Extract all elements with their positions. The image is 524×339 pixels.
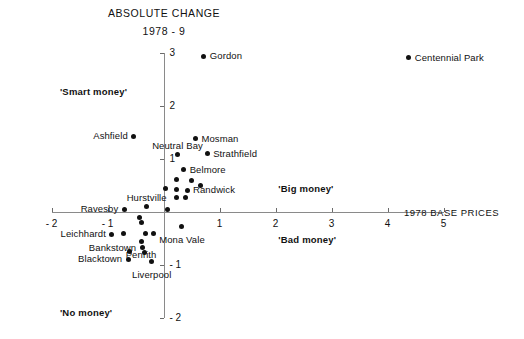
data-point — [143, 231, 148, 236]
data-point — [144, 204, 149, 209]
data-point — [174, 177, 179, 182]
point-label-ravesby: Ravesby — [81, 204, 119, 214]
data-point — [175, 152, 180, 157]
point-label-hurstville: Hurstville — [127, 193, 167, 203]
data-point — [406, 55, 411, 60]
data-point — [151, 231, 156, 236]
point-label-blacktown: Blacktown — [78, 254, 122, 264]
data-point — [185, 188, 190, 193]
data-point — [201, 54, 206, 59]
x-tick-label-1: 1 — [217, 219, 223, 229]
data-point — [131, 134, 136, 139]
data-point — [174, 187, 179, 192]
data-point — [179, 224, 184, 229]
chart-title: ABSOLUTE CHANGE — [108, 8, 220, 19]
y-tick-label-neg2: - 2 — [170, 313, 182, 323]
data-point — [139, 239, 144, 244]
data-point — [109, 232, 114, 237]
y-tick-label-2: 2 — [170, 101, 176, 111]
scatter-plot: - 2- 112345- 2- 1123GordonCentennial Par… — [0, 0, 524, 339]
point-label-centennial-park: Centennial Park — [415, 53, 484, 63]
x-tick-mark — [332, 208, 333, 212]
quadrant-label-no-money: 'No money' — [60, 308, 112, 318]
y-tick-mark — [160, 106, 164, 107]
y-tick-mark — [160, 318, 164, 319]
point-label-randwick: Randwick — [193, 185, 235, 195]
x-tick-label-neg1: - 1 — [102, 219, 114, 229]
point-label-belmore: Belmore — [190, 165, 226, 175]
y-tick-mark — [160, 265, 164, 266]
data-point — [149, 259, 154, 264]
x-tick-label-2: 2 — [273, 219, 279, 229]
point-label-gordon: Gordon — [210, 51, 242, 61]
data-point — [139, 220, 144, 225]
data-point — [189, 178, 194, 183]
point-label-liverpool: Liverpool — [132, 270, 171, 280]
data-point — [181, 167, 186, 172]
point-label-mosman: Mosman — [201, 134, 238, 144]
y-tick-mark — [160, 159, 164, 160]
x-tick-label-3: 3 — [329, 219, 335, 229]
data-point — [163, 186, 168, 191]
data-point — [174, 195, 179, 200]
data-point — [205, 151, 210, 156]
data-point — [121, 231, 126, 236]
x-tick-label-4: 4 — [385, 219, 391, 229]
x-tick-mark — [52, 208, 53, 212]
data-point — [140, 245, 145, 250]
quadrant-label-big-money: 'Big money' — [278, 184, 333, 194]
y-tick-label-neg1: - 1 — [170, 260, 182, 270]
quadrant-label-smart-money: 'Smart money' — [60, 87, 127, 97]
x-tick-label-neg2: - 2 — [46, 219, 58, 229]
point-label-mona-vale: Mona Vale — [159, 235, 205, 245]
point-label-ashfield: Ashfield — [93, 131, 128, 141]
data-point — [183, 195, 188, 200]
data-point — [122, 207, 127, 212]
x-tick-label-5: 5 — [441, 219, 447, 229]
y-tick-mark — [160, 53, 164, 54]
quadrant-label-bad-money: 'Bad money' — [278, 235, 336, 245]
chart-subtitle: 1978 - 9 — [143, 26, 186, 37]
x-tick-mark — [276, 208, 277, 212]
point-label-leichhardt: Leichhardt — [61, 229, 106, 239]
x-axis-title: 1978 BASE PRICES — [404, 208, 499, 218]
data-point — [126, 257, 131, 262]
point-label-strathfield: Strathfield — [213, 149, 257, 159]
point-label-neutral-bay: Neutral Bay — [152, 141, 203, 151]
y-tick-label-3: 3 — [170, 48, 176, 58]
x-tick-mark — [220, 208, 221, 212]
x-tick-mark — [388, 208, 389, 212]
